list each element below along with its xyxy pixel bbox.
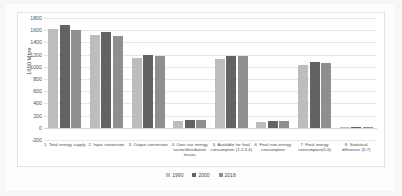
y-tick-label: 1200 [16, 52, 42, 58]
y-tick-label: -200 [16, 137, 42, 143]
bar [71, 30, 81, 128]
bar [340, 127, 350, 128]
legend-entry[interactable]: 2018 [219, 172, 236, 178]
x-axis-category-label: 7. Final energy consumption(5-6) [294, 142, 336, 152]
y-tick-label: 600 [16, 88, 42, 94]
bar [363, 127, 373, 128]
bar [132, 58, 142, 128]
y-tick-label: 200 [16, 113, 42, 119]
bar [268, 121, 278, 128]
bar [113, 36, 123, 128]
legend-label: 1990 [172, 172, 183, 178]
x-axis-category-label: 1. Total energy supply [44, 142, 86, 147]
x-axis-category-label: 5. Available for final consumption (1-2-… [211, 142, 253, 152]
bar-chart-figure: 1000 Mtoe 180016001400120010008006004002… [0, 0, 402, 196]
legend-swatch-icon [192, 173, 196, 177]
bar [256, 122, 266, 128]
bar-group [169, 18, 211, 140]
scan-edge-top [0, 0, 402, 4]
bar [90, 35, 100, 128]
x-axis-category-label: 2. Input conversion [86, 142, 128, 147]
scan-edge-left [0, 0, 6, 196]
bar [196, 120, 206, 128]
bar [298, 65, 308, 128]
bar-group [44, 18, 86, 140]
bar [321, 63, 331, 128]
plot-area [44, 18, 377, 140]
x-axis-category-label: 6. Final non-energy consumption [252, 142, 294, 152]
x-axis-category-labels: 1. Total energy supply2. Input conversio… [44, 142, 377, 164]
legend-label: 2018 [225, 172, 236, 178]
x-axis-category-label: 3. Output conversion [127, 142, 169, 147]
y-tick-label: 1800 [16, 15, 42, 21]
x-axis-category-label: 8. Statistical difference (5-7) [335, 142, 377, 152]
bar-group [86, 18, 128, 140]
scan-edge-bottom [0, 191, 402, 196]
x-axis-category-label: 4. Own use energy sector/distribution lo… [169, 142, 211, 158]
bar [155, 56, 165, 128]
bar [143, 55, 153, 128]
legend-entry[interactable]: 1990 [166, 172, 183, 178]
y-tick-label: 0 [16, 125, 42, 131]
scan-edge-right [394, 0, 402, 196]
bar [279, 121, 289, 128]
y-axis-tick-labels: 180016001400120010008006004002000-200 [15, 18, 42, 140]
bar [101, 32, 111, 128]
bar-group [211, 18, 253, 140]
gridline--200 [44, 140, 377, 141]
legend-label: 2000 [198, 172, 209, 178]
bar [310, 62, 320, 128]
bar [351, 127, 361, 128]
legend-swatch-icon [219, 173, 223, 177]
bar [226, 56, 236, 128]
bar-group [335, 18, 377, 140]
legend-swatch-icon [166, 173, 170, 177]
bar [215, 59, 225, 128]
bar-group [127, 18, 169, 140]
y-tick-label: 1600 [16, 27, 42, 33]
bar-group [252, 18, 294, 140]
y-tick-label: 1000 [16, 64, 42, 70]
bar-group [294, 18, 336, 140]
bars-layer [44, 18, 377, 140]
y-tick-label: 800 [16, 76, 42, 82]
y-tick-label: 400 [16, 100, 42, 106]
bar [238, 56, 248, 128]
bar [173, 121, 183, 128]
legend-entry[interactable]: 2000 [192, 172, 209, 178]
bar [48, 29, 58, 128]
bar [60, 25, 70, 128]
chart-legend: 199020002018 [0, 172, 402, 178]
y-tick-label: 1400 [16, 39, 42, 45]
bar [185, 120, 195, 128]
